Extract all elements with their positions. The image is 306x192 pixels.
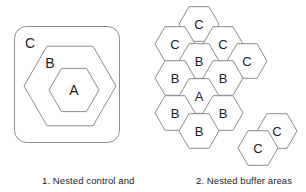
hex-label: B: [195, 124, 204, 139]
panel-nested-control: C B A: [15, 27, 120, 143]
caption-row: 1. Nested control and 2. Nested buffer a…: [0, 172, 306, 192]
figure-container: C B A: [0, 0, 306, 192]
hex-label: B: [219, 106, 228, 121]
hex-label: B: [171, 71, 180, 86]
label-b-outer: B: [45, 55, 54, 71]
diagram-canvas: C B A: [0, 0, 306, 192]
hex-label: C: [242, 54, 251, 69]
hex-label: C: [272, 124, 281, 139]
hex-label: B: [219, 71, 228, 86]
hex-label: C: [170, 37, 179, 52]
hex-label: B: [171, 106, 180, 121]
label-a-outer: A: [69, 82, 79, 98]
hex-label: B: [195, 54, 204, 69]
label-c-outer: C: [25, 35, 35, 51]
caption-nested-control: 1. Nested control and: [42, 175, 134, 186]
panel-nested-buffer: C C C B C B B A B B B C C: [155, 7, 297, 166]
hex-label: C: [218, 37, 227, 52]
hex-label: C: [253, 141, 262, 156]
caption-nested-buffer: 2. Nested buffer areas: [196, 175, 292, 186]
hex-label: A: [195, 89, 204, 104]
hex-label: C: [194, 17, 203, 32]
